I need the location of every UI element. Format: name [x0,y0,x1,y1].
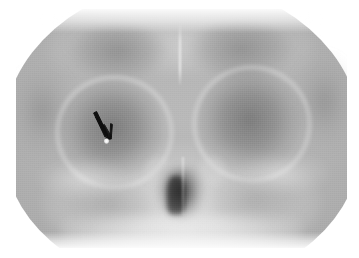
radiograph-figure [0,0,359,258]
radiopaque-focus [104,138,109,144]
frontal-sinus-left [69,23,168,80]
alveolar-ridge [62,215,300,248]
zygomatic-arc-left [33,157,132,200]
radiograph-film [16,9,347,248]
midline-septum [179,23,181,85]
nasal-septum [182,157,185,214]
zygomatic-arc-right [234,152,333,195]
